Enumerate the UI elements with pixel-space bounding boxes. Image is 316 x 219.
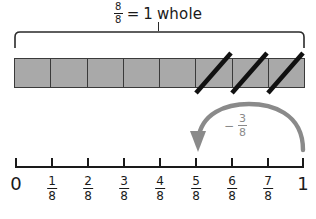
bar-cell: [88, 59, 124, 87]
whole-bracket-icon: [14, 31, 305, 48]
number-line-label-1-8: 1 8: [47, 175, 57, 202]
bar-cell: [124, 59, 160, 87]
number-line-tick: [159, 158, 161, 168]
minus-sign: −: [224, 119, 234, 133]
jump-amount-label: − 3 8: [224, 113, 247, 138]
number-line-label-2-8: 2 8: [83, 175, 93, 202]
number-line-label-5-8: 5 8: [191, 175, 201, 202]
number-line-fraction: 6 8: [227, 175, 237, 202]
number-line-fraction-denominator: 8: [83, 189, 93, 202]
number-line-label-0: 0: [10, 175, 21, 193]
number-line-tick: [267, 158, 269, 168]
number-line-fraction-numerator: 6: [227, 175, 237, 188]
number-line-tick: [302, 158, 304, 168]
number-line-fraction: 5 8: [191, 175, 201, 202]
number-line-fraction: 3 8: [119, 175, 129, 202]
bar-cell: [160, 59, 196, 87]
jump-fraction-denominator: 8: [238, 126, 247, 138]
jump-fraction-numerator: 3: [238, 113, 247, 125]
number-line-fraction: 4 8: [155, 175, 165, 202]
fraction-subtraction-diagram: 8 8 = 1 whole − 3: [0, 0, 316, 219]
number-line-fraction-denominator: 8: [263, 189, 273, 202]
jump-fraction: 3 8: [238, 113, 247, 138]
number-line-label-text: 1: [297, 173, 308, 194]
number-line-fraction-numerator: 7: [263, 175, 273, 188]
whole-word: whole: [157, 5, 202, 23]
number-line-label-7-8: 7 8: [263, 175, 273, 202]
bar-cell: [51, 59, 87, 87]
number-line-fraction: 1 8: [47, 175, 57, 202]
bar-cell: [196, 59, 232, 87]
one-numeral: 1: [143, 5, 153, 23]
bar-cell: [269, 59, 304, 87]
number-line-fraction-numerator: 2: [83, 175, 93, 188]
number-line-label-4-8: 4 8: [155, 175, 165, 202]
number-line-fraction-numerator: 5: [191, 175, 201, 188]
number-line-fraction-denominator: 8: [47, 189, 57, 202]
number-line-fraction-denominator: 8: [119, 189, 129, 202]
bar-cell: [15, 59, 51, 87]
number-line-fraction: 7 8: [263, 175, 273, 202]
number-line-label-1: 1: [297, 175, 308, 193]
equals-sign: =: [127, 5, 140, 23]
number-line-label-6-8: 6 8: [227, 175, 237, 202]
number-line-tick: [231, 158, 233, 168]
number-line-fraction-numerator: 4: [155, 175, 165, 188]
number-line-tick: [15, 158, 17, 168]
number-line-fraction-denominator: 8: [155, 189, 165, 202]
number-line-label-text: 0: [10, 173, 21, 194]
number-line-fraction-denominator: 8: [191, 189, 201, 202]
number-line-fraction-denominator: 8: [227, 189, 237, 202]
number-line-tick: [195, 158, 197, 168]
number-line-label-3-8: 3 8: [119, 175, 129, 202]
whole-fraction-denominator: 8: [114, 14, 122, 25]
number-line-fraction-numerator: 3: [119, 175, 129, 188]
whole-fraction-numerator: 8: [114, 2, 122, 13]
bracket-stem: [158, 22, 159, 31]
number-line-tick: [123, 158, 125, 168]
number-line-fraction-numerator: 1: [47, 175, 57, 188]
whole-fraction: 8 8: [114, 2, 123, 25]
number-line-tick: [51, 158, 53, 168]
fraction-bar-model: [14, 58, 305, 88]
bar-cell: [233, 59, 269, 87]
number-line-fraction: 2 8: [83, 175, 93, 202]
number-line-tick: [87, 158, 89, 168]
